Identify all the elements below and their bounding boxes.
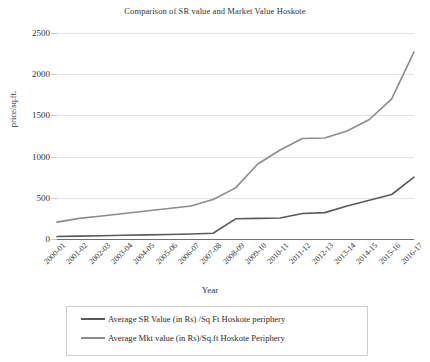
x-tick-label: 2010-11 [265,241,290,266]
x-tick-label: 2015-16 [377,241,402,266]
legend-label-sr: Average SR Value (in Rs) /Sq Ft Hoskote … [108,314,285,324]
x-tick-label: 2007-08 [198,241,223,266]
y-tick-mark [51,239,57,240]
x-tick-label: 2009-10 [243,241,268,266]
plot-area: 05001000150020002500 [57,33,414,239]
x-tick-label: 2014-15 [355,241,380,266]
x-axis-tick-labels: 2000-012001-022002-032003-042004-052005-… [57,241,414,287]
x-tick-label: 2011-12 [288,241,313,266]
x-tick-label: 2005-06 [154,241,179,266]
y-axis-label: price/sq.ft. [8,79,18,139]
y-tick-label: 0 [46,234,51,244]
x-tick-label: 2004-05 [131,241,156,266]
legend-item-sr: Average SR Value (in Rs) /Sq Ft Hoskote … [81,312,285,326]
x-tick-label: 2001-02 [64,241,89,266]
legend-swatch-mkt [81,337,105,339]
line-series-mkt [57,52,414,222]
y-tick-label: 500 [37,193,51,203]
legend-item-mkt: Average Mkt value (in Rs)/Sq.ft Hoskote … [81,331,285,345]
chart-container: Comparison of SR value and Market Value … [0,0,430,362]
x-tick-label: 2002-03 [87,241,112,266]
chart-title: Comparison of SR value and Market Value … [0,6,430,16]
y-tick-label: 1500 [32,110,50,120]
x-tick-label: 2000-01 [42,241,67,266]
x-axis-label: Year [150,285,270,295]
y-tick-label: 2500 [32,28,50,38]
x-tick-label: 2012-13 [310,241,335,266]
chart-legend: Average SR Value (in Rs) /Sq Ft Hoskote … [66,306,368,356]
legend-swatch-sr [81,318,105,320]
x-tick-label: 2003-04 [109,241,134,266]
y-tick-label: 2000 [32,69,50,79]
y-tick-label: 1000 [32,152,50,162]
gridline: 0 [57,239,414,240]
line-series-sr [57,177,414,236]
series-lines [57,33,414,239]
x-tick-label: 2013-14 [332,241,357,266]
x-tick-label: 2006-07 [176,241,201,266]
x-tick-label: 2008-09 [221,241,246,266]
legend-label-mkt: Average Mkt value (in Rs)/Sq.ft Hoskote … [108,333,285,343]
x-tick-label: 2016-17 [399,241,424,266]
